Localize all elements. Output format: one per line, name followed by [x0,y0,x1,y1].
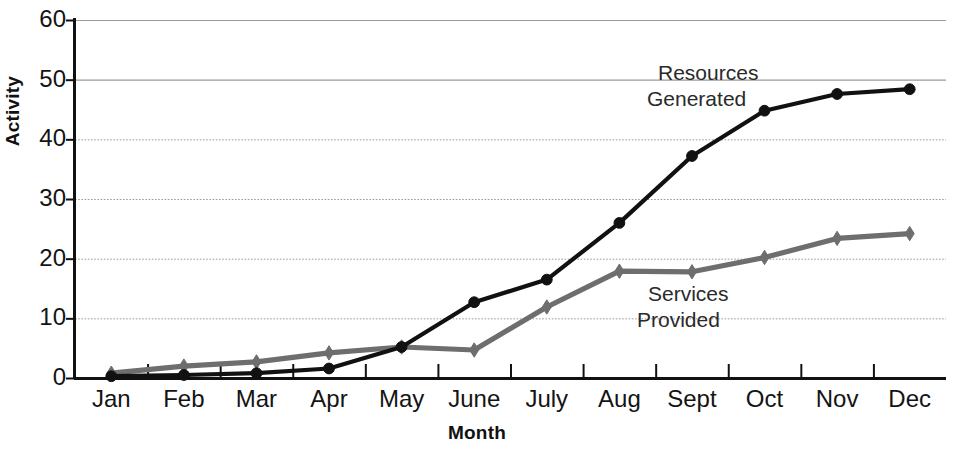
data-point-marker [470,343,479,357]
x-axis-tick-labels: JanFebMarAprMayJuneJulyAugSeptOctNovDec [0,386,954,426]
series-label-services-provided: Services Provided [648,281,729,333]
data-point-marker [905,226,914,240]
data-point-marker [833,231,842,245]
data-point-marker [760,250,769,264]
x-axis-title: Month [0,422,954,444]
data-series-layer [106,84,915,382]
data-point-marker [542,300,551,314]
x-axis-tick-label: Jan [92,386,131,412]
data-point-marker [759,105,770,116]
data-point-marker [469,297,480,308]
data-point-marker [106,371,117,382]
data-point-marker [615,264,624,278]
data-point-marker [396,342,407,353]
series-label-services-line2: Provided [637,307,729,333]
data-point-marker [252,355,261,369]
gridlines [75,21,946,319]
x-axis-tick-label: Dec [888,386,931,412]
series-line [111,234,909,374]
x-axis-tick-label: Feb [163,386,204,412]
series-label-resources-line1: Resources [658,60,758,86]
data-point-marker [614,218,625,229]
x-axis-tick-label: Oct [746,386,783,412]
series-label-resources-line2: Generated [647,86,758,112]
x-axis-tick-label: June [448,386,500,412]
series-label-services-line1: Services [648,281,729,307]
x-axis-tick-label: Nov [816,386,859,412]
data-point-marker [687,151,698,162]
data-point-marker [688,265,697,279]
x-axis-tick-label: Mar [236,386,277,412]
series-services-provided [107,226,914,380]
data-point-marker [251,368,262,379]
data-point-marker [904,84,915,95]
line-chart: Activity 0102030405060 JanFebMarAprMayJu… [0,0,954,453]
series-resources-generated [106,84,915,382]
x-axis-tick-label: Aug [598,386,641,412]
data-point-marker [325,346,334,360]
series-label-resources-generated: Resources Generated [658,60,758,112]
x-axis-tick-label: July [525,386,568,412]
data-point-marker [324,363,335,374]
data-point-marker [832,89,843,100]
x-axis-tick-label: Apr [310,386,347,412]
x-axis-tick-label: Sept [667,386,716,412]
x-axis-tick-label: May [379,386,424,412]
data-point-marker [179,370,190,381]
series-line [111,89,909,376]
data-point-marker [541,274,552,285]
